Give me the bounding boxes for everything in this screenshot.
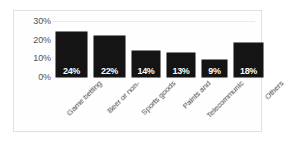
bar-value-label: 14% (132, 67, 160, 76)
bar-slot[interactable]: 13% (167, 21, 195, 77)
bar-value-label: 9% (202, 67, 227, 76)
bar[interactable]: 9% (202, 60, 227, 77)
bar-slot[interactable]: 14% (132, 21, 160, 77)
plot-area: 24% 22% 14% 13% 9% 18% (53, 21, 255, 77)
chart-card: 30% 20% 10% 0% 24% 22% 14% 13% (13, 10, 262, 132)
bar[interactable]: 22% (94, 36, 125, 77)
bar-value-label: 24% (56, 67, 87, 76)
bar[interactable]: 14% (132, 51, 160, 77)
bar-slot[interactable]: 18% (234, 21, 263, 77)
y-tick-label: 0% (38, 73, 51, 82)
y-tick-label: 30% (33, 17, 51, 26)
bar-value-label: 22% (94, 67, 125, 76)
y-tick-label: 20% (33, 35, 51, 44)
bar[interactable]: 24% (56, 32, 87, 77)
y-tick-label: 10% (33, 54, 51, 63)
bar-slot[interactable]: 24% (56, 21, 87, 77)
bar[interactable]: 13% (167, 53, 195, 77)
x-axis: Game betting Beer or non- Sports goods P… (53, 79, 255, 129)
bar-value-label: 13% (167, 67, 195, 76)
bar-slot[interactable]: 22% (94, 21, 125, 77)
bar-slot[interactable]: 9% (202, 21, 227, 77)
bar-value-label: 18% (234, 67, 263, 76)
bar[interactable]: 18% (234, 43, 263, 77)
y-axis: 30% 20% 10% 0% (19, 21, 51, 77)
